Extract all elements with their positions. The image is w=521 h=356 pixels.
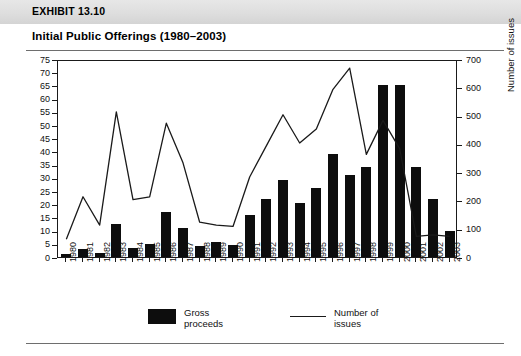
- x-tick: [65, 258, 66, 262]
- x-tick-label-2003: 2003: [453, 242, 462, 262]
- x-tick-label-1999: 1999: [386, 242, 395, 262]
- legend-bar-label-line2: proceeds: [184, 318, 223, 329]
- x-tick: [449, 258, 450, 262]
- x-tick-label-1994: 1994: [303, 242, 312, 262]
- y-tick-label-right: 400: [466, 140, 496, 149]
- y-tick-left: [52, 232, 57, 233]
- x-tick: [232, 258, 233, 262]
- y-tick-left: [52, 73, 57, 74]
- x-tick-label-2001: 2001: [419, 242, 428, 262]
- legend-line-label-line1: Number of: [334, 307, 378, 318]
- y-axis-right-title: Number of issues: [505, 18, 516, 92]
- x-tick: [199, 258, 200, 262]
- legend-bar-label-line1: Gross: [184, 307, 223, 318]
- x-tick-label-2002: 2002: [436, 242, 445, 262]
- y-tick-label-left: 60: [26, 95, 50, 104]
- exhibit-page: EXHIBIT 13.10 Initial Public Offerings (…: [0, 0, 521, 356]
- y-tick-left: [52, 126, 57, 127]
- x-tick-label-1981: 1981: [86, 242, 95, 262]
- y-tick-label-left: 45: [26, 135, 50, 144]
- x-tick-label-1992: 1992: [269, 242, 278, 262]
- y-tick-right: [457, 88, 462, 89]
- y-tick-label-left: 35: [26, 161, 50, 170]
- y-tick-left: [52, 139, 57, 140]
- chart-legend: Gross proceeds Number of issues: [0, 305, 521, 339]
- x-tick-label-1988: 1988: [203, 242, 212, 262]
- y-tick-label-left: 0: [26, 254, 50, 263]
- y-tick-label-right: 200: [466, 197, 496, 206]
- legend-line-swatch: [290, 316, 326, 317]
- y-tick-left: [52, 218, 57, 219]
- x-tick-label-1991: 1991: [253, 242, 262, 262]
- line-series-group: [58, 61, 458, 259]
- y-tick-right: [457, 145, 462, 146]
- x-tick: [315, 258, 316, 262]
- x-tick-label-1989: 1989: [219, 242, 228, 262]
- x-tick: [82, 258, 83, 262]
- x-tick-label-1998: 1998: [369, 242, 378, 262]
- x-tick-label-1995: 1995: [319, 242, 328, 262]
- y-tick-left: [52, 179, 57, 180]
- chart-plot-area: [57, 60, 457, 258]
- y-tick-left: [52, 113, 57, 114]
- x-tick: [215, 258, 216, 262]
- y-tick-label-left: 10: [26, 227, 50, 236]
- x-tick: [249, 258, 250, 262]
- y-tick-left: [52, 86, 57, 87]
- x-tick: [115, 258, 116, 262]
- x-tick: [399, 258, 400, 262]
- x-tick: [332, 258, 333, 262]
- y-tick-left: [52, 152, 57, 153]
- x-tick: [282, 258, 283, 262]
- x-tick: [415, 258, 416, 262]
- y-tick-label-right: 100: [466, 225, 496, 234]
- y-tick-label-left: 15: [26, 214, 50, 223]
- x-tick: [265, 258, 266, 262]
- y-tick-left: [52, 100, 57, 101]
- x-tick: [99, 258, 100, 262]
- y-tick-left: [52, 60, 57, 61]
- y-tick-right: [457, 60, 462, 61]
- page-title: Initial Public Offerings (1980–2003): [32, 30, 226, 42]
- bottom-divider: [26, 343, 504, 344]
- x-tick-label-1980: 1980: [69, 242, 78, 262]
- x-tick: [432, 258, 433, 262]
- y-tick-label-left: 50: [26, 122, 50, 131]
- top-divider: [26, 50, 504, 51]
- x-tick-label-1985: 1985: [153, 242, 162, 262]
- y-tick-label-right: 500: [466, 112, 496, 121]
- y-tick-label-left: 75: [26, 56, 50, 65]
- y-tick-label-left: 5: [26, 240, 50, 249]
- x-tick-label-1986: 1986: [169, 242, 178, 262]
- x-tick-label-1987: 1987: [186, 242, 195, 262]
- y-tick-label-left: 30: [26, 174, 50, 183]
- x-tick: [165, 258, 166, 262]
- x-tick: [132, 258, 133, 262]
- x-tick-label-1990: 1990: [236, 242, 245, 262]
- legend-line-label-line2: issues: [334, 318, 378, 329]
- exhibit-label: EXHIBIT 13.10: [32, 5, 105, 17]
- x-tick-label-1996: 1996: [336, 242, 345, 262]
- legend-line-label: Number of issues: [334, 307, 378, 329]
- x-tick: [365, 258, 366, 262]
- y-tick-label-left: 20: [26, 201, 50, 210]
- y-tick-right: [457, 201, 462, 202]
- x-tick: [382, 258, 383, 262]
- legend-bar-swatch: [148, 309, 176, 324]
- y-tick-left: [52, 192, 57, 193]
- y-tick-label-left: 40: [26, 148, 50, 157]
- y-tick-label-right: 700: [466, 56, 496, 65]
- y-tick-left: [52, 205, 57, 206]
- y-tick-label-right: 0: [466, 254, 496, 263]
- x-tick: [299, 258, 300, 262]
- y-tick-label-left: 65: [26, 82, 50, 91]
- x-tick-label-1983: 1983: [119, 242, 128, 262]
- x-tick-label-1993: 1993: [286, 242, 295, 262]
- y-tick-label-left: 55: [26, 108, 50, 117]
- y-tick-label-left: 70: [26, 69, 50, 78]
- x-tick-label-1984: 1984: [136, 242, 145, 262]
- y-tick-label-right: 300: [466, 169, 496, 178]
- y-tick-right: [457, 230, 462, 231]
- x-tick-label-2000: 2000: [403, 242, 412, 262]
- x-tick-label-1997: 1997: [353, 242, 362, 262]
